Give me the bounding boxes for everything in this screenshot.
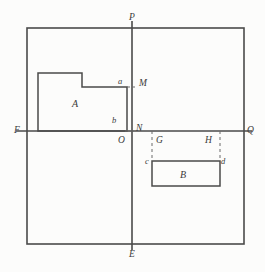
label-point-p: P bbox=[129, 13, 135, 23]
label-point-h: H bbox=[205, 136, 212, 146]
geometry-figure: P E F Q O M N G H a b c d A B bbox=[0, 0, 265, 272]
label-point-q: Q bbox=[247, 126, 254, 136]
figure-canvas bbox=[0, 0, 265, 272]
label-region-a: A bbox=[72, 99, 78, 109]
label-point-n: N bbox=[136, 124, 142, 134]
label-point-a-lower: a bbox=[118, 77, 122, 86]
label-point-d-lower: d bbox=[221, 157, 225, 166]
label-point-g: G bbox=[156, 136, 163, 146]
label-point-c-lower: c bbox=[145, 157, 149, 166]
label-point-b-lower: b bbox=[112, 116, 116, 125]
label-region-b: B bbox=[180, 170, 186, 180]
label-point-e: E bbox=[129, 250, 135, 260]
label-point-f: F bbox=[14, 126, 20, 136]
label-point-o: O bbox=[118, 136, 125, 146]
label-point-m: M bbox=[139, 79, 147, 89]
